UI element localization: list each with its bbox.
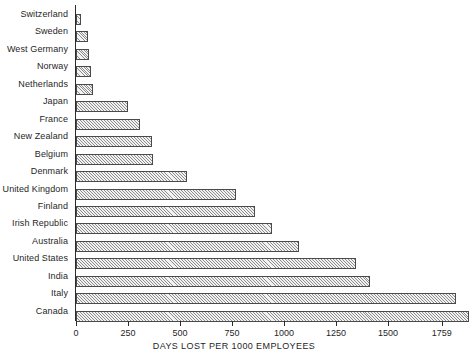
bar bbox=[76, 66, 91, 77]
bar-row bbox=[76, 168, 468, 185]
x-tick-label: 0 bbox=[73, 328, 78, 338]
bar bbox=[76, 14, 81, 25]
bar bbox=[76, 136, 152, 147]
bar bbox=[76, 154, 153, 165]
x-tick bbox=[442, 321, 443, 326]
category-label: United States bbox=[0, 250, 68, 267]
category-label: Norway bbox=[0, 58, 68, 75]
x-axis-title: DAYS LOST PER 1000 EMPLOYEES bbox=[0, 341, 468, 351]
bar bbox=[76, 276, 370, 287]
bar-row bbox=[76, 28, 468, 45]
category-label: Irish Republic bbox=[0, 215, 68, 232]
bar-row bbox=[76, 238, 468, 255]
category-label: France bbox=[0, 111, 68, 128]
bar bbox=[76, 258, 356, 269]
category-label: Finland bbox=[0, 198, 68, 215]
category-label: Japan bbox=[0, 93, 68, 110]
category-label: India bbox=[0, 268, 68, 285]
bar-row bbox=[76, 46, 468, 63]
bar-row bbox=[76, 186, 468, 203]
bar bbox=[76, 101, 128, 112]
category-label: Netherlands bbox=[0, 76, 68, 93]
category-label: Switzerland bbox=[0, 6, 68, 23]
bar bbox=[76, 119, 140, 130]
category-label: New Zealand bbox=[0, 128, 68, 145]
bar bbox=[76, 293, 456, 304]
bar bbox=[76, 84, 93, 95]
category-label: Italy bbox=[0, 285, 68, 302]
x-tick-label: 1000 bbox=[274, 328, 294, 338]
bar-row bbox=[76, 220, 468, 237]
bar-row bbox=[76, 308, 468, 325]
x-tick-label: 500 bbox=[172, 328, 187, 338]
x-tick-label: 250 bbox=[120, 328, 135, 338]
category-label: Australia bbox=[0, 233, 68, 250]
bar-row bbox=[76, 11, 468, 28]
plot-area bbox=[76, 5, 468, 321]
bar bbox=[76, 189, 236, 200]
bar-row bbox=[76, 81, 468, 98]
bar-row bbox=[76, 290, 468, 307]
x-tick-label: 1250 bbox=[326, 328, 346, 338]
category-label: Canada bbox=[0, 303, 68, 320]
bar bbox=[76, 311, 469, 322]
x-tick bbox=[232, 321, 233, 326]
bar-row bbox=[76, 151, 468, 168]
category-label: Belgium bbox=[0, 146, 68, 163]
x-tick-label: 1500 bbox=[378, 328, 398, 338]
x-tick bbox=[336, 321, 337, 326]
bar-row bbox=[76, 133, 468, 150]
x-tick bbox=[388, 321, 389, 326]
bar bbox=[76, 31, 88, 42]
bar-row bbox=[76, 116, 468, 133]
x-tick bbox=[76, 321, 77, 326]
category-label: Sweden bbox=[0, 23, 68, 40]
category-label: United Kingdom bbox=[0, 181, 68, 198]
bar bbox=[76, 49, 89, 60]
x-tick bbox=[180, 321, 181, 326]
x-tick-label: 1759 bbox=[432, 328, 452, 338]
bar-row bbox=[76, 98, 468, 115]
category-label: Denmark bbox=[0, 163, 68, 180]
bar bbox=[76, 223, 272, 234]
category-label: West Germany bbox=[0, 41, 68, 58]
x-tick bbox=[284, 321, 285, 326]
bar bbox=[76, 171, 187, 182]
bar-row bbox=[76, 63, 468, 80]
bar bbox=[76, 241, 299, 252]
x-tick bbox=[128, 321, 129, 326]
bar bbox=[76, 206, 255, 217]
bar-row bbox=[76, 273, 468, 290]
x-tick-label: 750 bbox=[224, 328, 239, 338]
bar-row bbox=[76, 255, 468, 272]
bar-row bbox=[76, 203, 468, 220]
